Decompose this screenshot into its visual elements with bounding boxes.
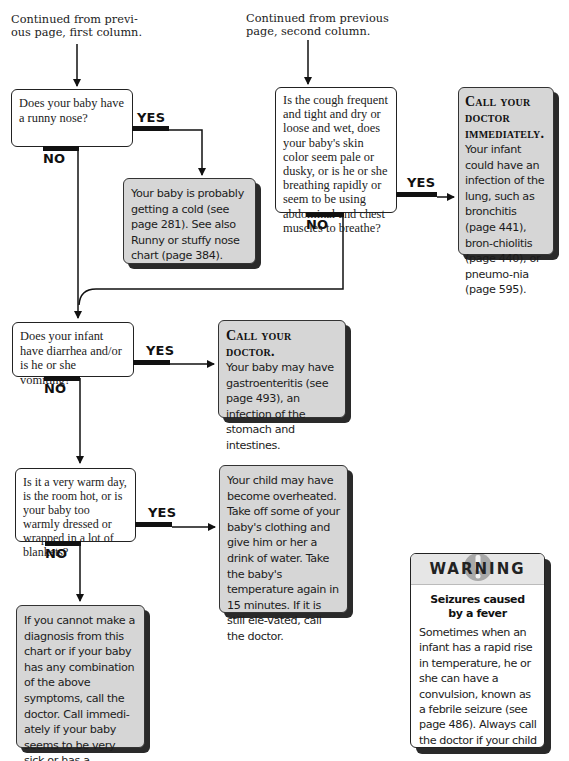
yes-branch-bar: [135, 522, 172, 527]
question-cough: Is the cough frequent and tight and dry …: [275, 87, 397, 213]
answer-lung-infection: Call your doctor immediately. Your infan…: [458, 87, 554, 255]
no-label: NO: [44, 381, 66, 396]
yes-label: YES: [137, 110, 165, 125]
yes-label: YES: [407, 175, 435, 190]
yes-branch-bar: [396, 192, 437, 197]
answer-overheated: Your child may have become overheated. T…: [219, 465, 348, 613]
yes-label: YES: [148, 505, 176, 520]
no-label: NO: [306, 217, 328, 232]
caption-second-column: Continued from previous page, second col…: [246, 12, 389, 38]
warning-title: WARNING: [429, 560, 525, 578]
answer-heading: Call your doctor.: [226, 328, 338, 360]
no-label: NO: [43, 151, 65, 166]
answer-gastroenteritis: Call your doctor. Your baby may have gas…: [218, 320, 346, 418]
warning-header: WARNING: [411, 554, 544, 585]
answer-cold: Your baby is probably getting a cold (se…: [123, 178, 256, 264]
warning-text: Sometimes when an infant has a rapid ris…: [411, 621, 544, 748]
answer-call-doctor-general: If you cannot make a diagnosis from this…: [16, 605, 145, 748]
yes-label: YES: [146, 343, 174, 358]
no-label: NO: [45, 546, 67, 561]
yes-branch-bar: [133, 360, 170, 365]
warning-subtitle: Seizures caused by a fever: [411, 593, 544, 621]
question-diarrhea: Does your infant have diarrhea and/or is…: [12, 322, 134, 377]
warning-box: WARNING Seizures caused by a fever Somet…: [410, 553, 545, 748]
question-overheated: Is it a very warm day, is the room hot, …: [15, 468, 136, 542]
question-runny-nose: Does your baby have a runny nose?: [11, 89, 133, 147]
yes-branch-bar: [132, 126, 169, 131]
answer-heading: Call your doctor immediately.: [465, 94, 547, 142]
caption-first-column: Continued from previ- ous page, first co…: [11, 13, 142, 39]
